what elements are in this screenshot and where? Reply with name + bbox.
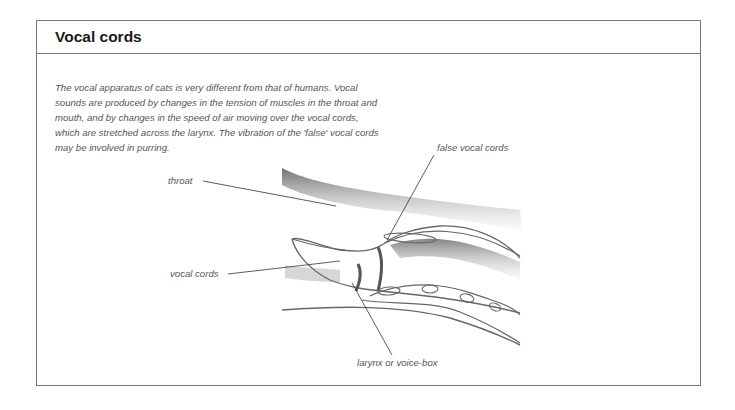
label-false-vocal-cords: false vocal cords bbox=[437, 142, 508, 153]
label-throat: throat bbox=[168, 175, 193, 186]
vocal-cords-illustration bbox=[0, 0, 735, 410]
throat-tissue bbox=[282, 168, 522, 230]
label-larynx: larynx or voice-box bbox=[357, 357, 438, 368]
larynx-leader-line bbox=[352, 283, 392, 355]
label-vocal-cords: vocal cords bbox=[170, 268, 219, 279]
esophagus-outline bbox=[282, 307, 520, 345]
